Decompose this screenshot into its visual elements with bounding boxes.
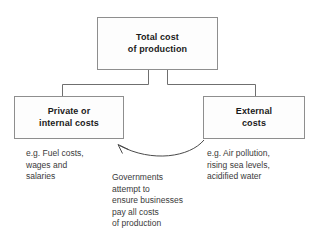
external-costs-label: External costs (236, 106, 272, 129)
external-costs-examples: e.g. Air pollution, rising sea levels, a… (207, 148, 315, 183)
connector-to-private-costs (63, 70, 149, 96)
government-intervention-note: Governments attempt to ensure businesses… (112, 172, 207, 230)
private-internal-costs-label: Private or internal costs (39, 106, 99, 129)
cost-of-production-diagram: Total cost of production Private or inte… (0, 0, 319, 241)
private-internal-costs-node: Private or internal costs (14, 96, 124, 139)
external-costs-node: External costs (203, 96, 305, 139)
total-cost-label: Total cost of production (128, 32, 187, 55)
government-intervention-arrow (120, 140, 205, 156)
total-cost-node: Total cost of production (97, 17, 218, 70)
connector-to-external-costs (168, 70, 256, 96)
